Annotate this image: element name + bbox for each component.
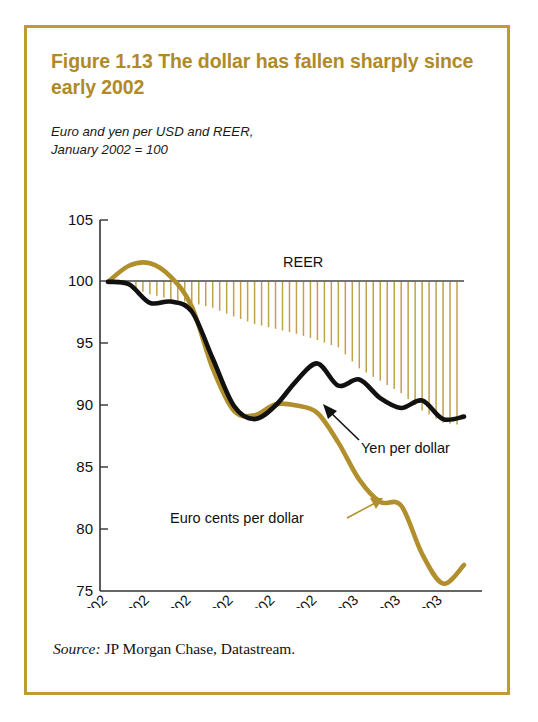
- source-note: Source: JP Morgan Chase, Datastream.: [53, 640, 295, 658]
- x-axis-labels: Jan. 2002Mar. 2002May 2002July 2002Sept.…: [54, 592, 445, 608]
- annotation-euro-cents-per-dollar: Euro cents per dollar: [170, 498, 383, 526]
- figure-title: Figure 1.13 The dollar has fallen sharpl…: [51, 48, 475, 100]
- figure-subtitle: Euro and yen per USD and REER,January 20…: [51, 123, 471, 159]
- y-axis-labels: 105 100 95 90 85 80 75: [68, 211, 93, 599]
- y-tick-105: 105: [68, 211, 93, 228]
- annotation-reer: REER: [283, 254, 323, 270]
- series-line-euro-cents-per-dollar: [108, 262, 464, 583]
- series-line-yen-per-dollar: [108, 282, 464, 420]
- figure-body: Figure 1.13 The dollar has fallen sharpl…: [27, 28, 507, 692]
- y-tick-95: 95: [76, 334, 93, 351]
- y-tick-100: 100: [68, 272, 93, 289]
- y-tick-90: 90: [76, 396, 93, 413]
- annotation-label-euro: Euro cents per dollar: [170, 510, 304, 526]
- y-tick-85: 85: [76, 458, 93, 475]
- y-tick-75: 75: [76, 582, 93, 599]
- source-label: Source:: [53, 640, 101, 657]
- line-chart-svg: 105 100 95 90 85 80 75: [27, 168, 507, 608]
- figure-frame: Figure 1.13 The dollar has fallen sharpl…: [24, 25, 510, 695]
- y-tick-80: 80: [76, 520, 93, 537]
- chart-plot-area: 105 100 95 90 85 80 75: [27, 168, 507, 608]
- annotation-arrow-line-euro: [347, 502, 377, 518]
- source-value: JP Morgan Chase, Datastream.: [101, 640, 296, 657]
- annotation-label-yen: Yen per dollar: [361, 440, 450, 456]
